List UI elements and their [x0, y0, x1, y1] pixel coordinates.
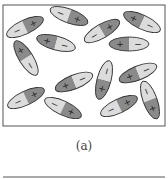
dipole-molecule: +− [92, 59, 116, 101]
dipole-molecule: −+ [137, 79, 164, 121]
dipole-molecule: +− [117, 59, 159, 87]
dipole-molecule: −+ [48, 3, 90, 30]
dipole-group: −+−+−++−+−+−+−+−+−+−−+−+−+−+ [4, 3, 164, 123]
negative-charge-label: − [134, 39, 142, 49]
figure-caption: (a) [0, 139, 168, 153]
dipole-molecule: −+ [5, 83, 47, 113]
dipole-molecule: −+ [42, 93, 84, 123]
dipole-molecule: +− [9, 37, 42, 78]
dipole-molecule: +− [35, 31, 77, 55]
positive-charge-label: + [116, 39, 124, 49]
dipole-molecule: +− [121, 7, 163, 37]
dipole-molecule: +− [53, 68, 95, 96]
dipole-molecule: +− [109, 37, 149, 51]
